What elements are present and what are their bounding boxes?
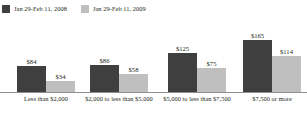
bar[interactable] bbox=[17, 66, 46, 92]
bar-item[interactable]: $114 bbox=[272, 56, 301, 92]
bar-group-bars: $86$58 bbox=[90, 18, 148, 92]
legend-label-2009: Jan 29-Feb 11, 2009 bbox=[93, 5, 146, 13]
legend-label-2008: Jan 29-Feb 11, 2008 bbox=[14, 5, 67, 13]
legend-swatch-2008 bbox=[2, 5, 10, 13]
bar-group-bars: $165$114 bbox=[243, 18, 301, 92]
bar[interactable] bbox=[90, 65, 119, 92]
bar-value-label: $125 bbox=[176, 45, 189, 54]
bar-group-bars: $125$75 bbox=[168, 18, 226, 92]
bar-group-bars: $84$34 bbox=[17, 18, 75, 92]
legend-swatch-2009 bbox=[81, 5, 89, 13]
x-axis-baseline bbox=[0, 92, 307, 93]
bar[interactable] bbox=[243, 40, 272, 92]
bar-value-label: $86 bbox=[100, 57, 110, 66]
legend-item-2009: Jan 29-Feb 11, 2009 bbox=[81, 3, 146, 15]
bar-value-label: $58 bbox=[129, 66, 139, 75]
bar-item[interactable]: $165 bbox=[243, 40, 272, 92]
bar[interactable] bbox=[197, 68, 226, 92]
x-axis-category-labels: Less than $2,000$2,000 to less than $5,0… bbox=[0, 95, 307, 119]
bar-item[interactable]: $58 bbox=[119, 74, 148, 92]
plot-area: $84$34$86$58$125$75$165$114 bbox=[0, 18, 307, 93]
bar[interactable] bbox=[119, 74, 148, 92]
legend-item-2008: Jan 29-Feb 11, 2008 bbox=[2, 3, 67, 15]
x-axis-label: $5,000 to less than $7,500 bbox=[158, 95, 236, 103]
bar-value-label: $84 bbox=[27, 58, 37, 67]
bar-value-label: $75 bbox=[207, 60, 217, 69]
bar-item[interactable]: $86 bbox=[90, 65, 119, 92]
bar[interactable] bbox=[168, 53, 197, 92]
bar-chart: Jan 29-Feb 11, 2008 Jan 29-Feb 11, 2009 … bbox=[0, 0, 307, 119]
bar-item[interactable]: $75 bbox=[197, 68, 226, 92]
bar[interactable] bbox=[272, 56, 301, 92]
chart-legend: Jan 29-Feb 11, 2008 Jan 29-Feb 11, 2009 bbox=[2, 3, 146, 15]
x-axis-label: $2,000 to less than $5,000 bbox=[82, 95, 156, 103]
bar-item[interactable]: $34 bbox=[46, 81, 75, 92]
bar-value-label: $165 bbox=[251, 32, 264, 41]
bar[interactable] bbox=[46, 81, 75, 92]
bar-value-label: $114 bbox=[280, 48, 293, 57]
bar-item[interactable]: $125 bbox=[168, 53, 197, 92]
x-axis-label: $7,500 or more bbox=[235, 95, 307, 103]
bar-value-label: $34 bbox=[56, 73, 66, 82]
bar-item[interactable]: $84 bbox=[17, 66, 46, 92]
x-axis-label: Less than $2,000 bbox=[9, 95, 83, 103]
